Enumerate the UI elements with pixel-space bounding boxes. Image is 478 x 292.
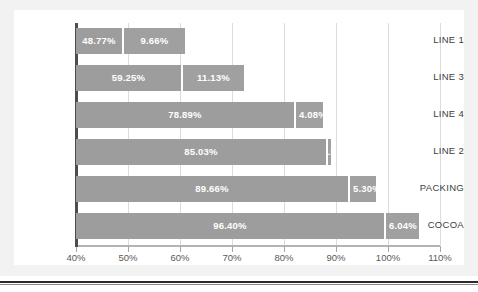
bar-row[interactable]: 78.89% 4.08%	[76, 102, 323, 128]
bar-segment-1[interactable]: 96.40%	[76, 213, 384, 239]
gridline-100	[388, 23, 389, 245]
xtick-label-60: 60%	[160, 252, 200, 263]
xtick-label-90: 90%	[316, 252, 356, 263]
bar-segment-2-label: 6.04%	[386, 213, 419, 239]
bar-row[interactable]: 89.66% 5.30%	[76, 176, 376, 202]
bar-segment-1-label: 78.89%	[76, 102, 294, 128]
bar-segment-2-label: 9.66%	[124, 28, 185, 54]
xtick-label-100: 100%	[366, 252, 410, 263]
gridline-80	[284, 23, 285, 245]
bar-segment-2-label: 11.13%	[183, 65, 244, 91]
gridline-90	[336, 23, 337, 245]
category-label-packing: PACKING	[412, 182, 464, 193]
axis-baseline	[76, 245, 440, 247]
xtick-label-110: 110%	[418, 252, 462, 263]
bar-row[interactable]: 85.03% 0.9	[76, 139, 331, 165]
bottom-divider-shadow	[0, 284, 478, 285]
bar-segment-2[interactable]: 4.08%	[294, 102, 323, 128]
bar-segment-1[interactable]: 78.89%	[76, 102, 294, 128]
bar-segment-1[interactable]: 89.66%	[76, 176, 348, 202]
bar-row[interactable]: 96.40% 6.04%	[76, 213, 419, 239]
bar-segment-2-label: 4.08%	[296, 102, 323, 128]
bar-segment-2-label: 0.9	[326, 139, 331, 165]
bar-row[interactable]: 48.77% 9.66%	[76, 28, 185, 54]
bar-segment-1[interactable]: 59.25%	[76, 65, 181, 91]
bar-segment-1-label: 59.25%	[76, 65, 181, 91]
gridline-110	[440, 23, 441, 245]
category-label-line-3: LINE 3	[412, 71, 464, 82]
category-label-line-1: LINE 1	[412, 34, 464, 45]
xtick-label-50: 50%	[108, 252, 148, 263]
xtick-label-80: 80%	[264, 252, 304, 263]
gridline-50	[128, 23, 129, 245]
bar-segment-1-label: 89.66%	[76, 176, 348, 202]
bar-segment-2[interactable]: 5.30%	[348, 176, 376, 202]
category-label-line-2: LINE 2	[412, 145, 464, 156]
bar-segment-2[interactable]: 0.9	[326, 139, 331, 165]
bar-segment-1[interactable]: 48.77%	[76, 28, 122, 54]
plot-area: LINE 1 LINE 3 LINE 4 LINE 2 PACKING COCO…	[14, 10, 464, 265]
chart-card: LINE 1 LINE 3 LINE 4 LINE 2 PACKING COCO…	[14, 10, 464, 265]
bar-segment-2-label: 5.30%	[350, 176, 376, 202]
gridline-70	[232, 23, 233, 245]
chart-screenshot: LINE 1 LINE 3 LINE 4 LINE 2 PACKING COCO…	[0, 0, 478, 292]
bar-segment-1[interactable]: 85.03%	[76, 139, 326, 165]
bar-segment-1-label: 96.40%	[76, 213, 384, 239]
bar-segment-1-label: 48.77%	[76, 28, 122, 54]
gridline-60	[180, 23, 181, 245]
bottom-divider	[0, 281, 478, 283]
bar-segment-2[interactable]: 9.66%	[122, 28, 185, 54]
xtick-label-70: 70%	[212, 252, 252, 263]
bar-row[interactable]: 59.25% 11.13%	[76, 65, 244, 91]
category-label-line-4: LINE 4	[412, 108, 464, 119]
bar-segment-1-label: 85.03%	[76, 139, 326, 165]
bar-segment-2[interactable]: 6.04%	[384, 213, 419, 239]
xtick-label-40: 40%	[56, 252, 96, 263]
category-label-cocoa: COCOA	[412, 219, 464, 230]
bar-segment-2[interactable]: 11.13%	[181, 65, 244, 91]
